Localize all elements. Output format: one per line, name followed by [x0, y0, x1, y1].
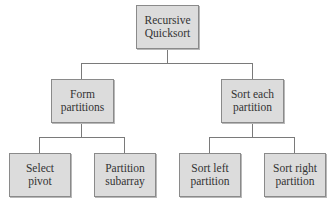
node-label-line: Partition: [105, 162, 145, 174]
node-label-line: Quicksort: [145, 27, 190, 39]
connector-sort-each-down: [252, 122, 253, 137]
node-sort-left-partition: Sort leftpartition: [179, 153, 241, 197]
node-label-line: Sort each: [231, 88, 274, 100]
connector-to-partition-subarray: [124, 137, 125, 153]
node-label-line: partition: [233, 101, 272, 113]
connector-level1-bar: [81, 63, 253, 64]
connector-right-bar: [209, 137, 295, 138]
node-sort-each-partition: Sort eachpartition: [221, 79, 284, 123]
connector-form-partitions-down: [81, 122, 82, 137]
node-label-line: Recursive: [145, 14, 191, 26]
connector-to-sort-left: [209, 137, 210, 153]
node-label-line: pivot: [28, 175, 52, 187]
node-label-line: Sort right: [273, 162, 317, 174]
node-recursive-quicksort: RecursiveQuicksort: [136, 5, 199, 49]
node-select-pivot: Selectpivot: [9, 153, 71, 197]
connector-to-form-partitions: [81, 63, 82, 79]
node-label-line: partition: [276, 175, 315, 187]
node-sort-right-partition: Sort rightpartition: [264, 153, 326, 197]
connector-root-down: [167, 48, 168, 63]
node-label-line: partition: [191, 175, 230, 187]
connector-to-select-pivot: [39, 137, 40, 153]
node-form-partitions: Formpartitions: [51, 79, 114, 123]
node-label-line: Sort left: [191, 162, 228, 174]
node-label-line: partitions: [61, 101, 104, 113]
node-label-line: Form: [70, 88, 95, 100]
node-partition-subarray: Partitionsubarray: [94, 153, 156, 197]
connector-left-bar: [39, 137, 125, 138]
node-label-line: Select: [26, 162, 54, 174]
node-label-line: subarray: [105, 175, 145, 187]
connector-to-sort-right: [294, 137, 295, 153]
connector-to-sort-each-partition: [252, 63, 253, 79]
